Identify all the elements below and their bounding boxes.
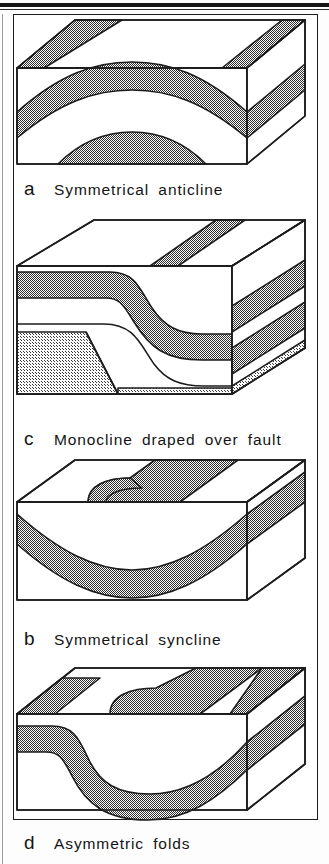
caption-d-text: Asymmetric folds <box>54 835 190 853</box>
caption-b-text: Symmetrical syncline <box>54 631 222 649</box>
figure-d-asymmetric-folds <box>0 652 329 827</box>
caption-a-letter: a <box>24 178 54 200</box>
page-top-rule-secondary <box>0 9 329 10</box>
block-diagram-monocline <box>0 208 329 413</box>
monocline-basement-downthrown <box>118 388 232 394</box>
page: a Symmetrical anticline <box>0 0 329 864</box>
caption-d-letter: d <box>24 832 54 854</box>
caption-a: a Symmetrical anticline <box>0 178 329 200</box>
caption-a-text: Symmetrical anticline <box>54 181 223 199</box>
figure-c-monocline-over-fault <box>0 208 329 413</box>
caption-d: d Asymmetric folds <box>0 832 329 854</box>
block-diagram-syncline <box>0 452 329 617</box>
block-diagram-anticline <box>0 16 329 176</box>
caption-b: b Symmetrical syncline <box>0 628 329 650</box>
figure-b-symmetrical-syncline <box>0 452 329 617</box>
caption-b-letter: b <box>24 628 54 650</box>
figure-a-symmetrical-anticline <box>0 16 329 176</box>
block-diagram-asymmetric <box>0 652 329 827</box>
caption-c-text: Monocline draped over fault <box>54 431 282 449</box>
page-top-rule <box>0 3 329 7</box>
caption-c: c Monocline draped over fault <box>0 428 329 450</box>
caption-c-letter: c <box>24 428 54 450</box>
